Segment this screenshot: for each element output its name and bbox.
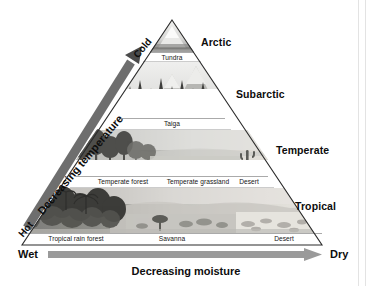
moisture-arrow	[48, 248, 322, 261]
biome-label-temperate-desert: Desert	[228, 178, 270, 185]
biome-label-tropical-desert: Desert	[262, 235, 306, 242]
biome-label-taiga: Taiga	[148, 120, 196, 127]
zone-label-temperate: Temperate	[276, 144, 329, 156]
zone-label-subarctic: Subarctic	[236, 88, 285, 100]
biome-label-savanna: Savanna	[140, 235, 204, 242]
biome-label-tundra: Tundra	[148, 54, 196, 61]
biome-pyramid-figure: Arctic Subarctic Temperate Tropical Tund…	[0, 0, 372, 286]
zone-label-tropical: Tropical	[295, 200, 336, 212]
band-image-tropical	[20, 186, 326, 233]
axis-label-dry: Dry	[330, 248, 348, 260]
axis-label-wet: Wet	[18, 248, 38, 260]
pyramid-graphic	[0, 0, 372, 286]
axis-caption-moisture: Decreasing moisture	[0, 265, 372, 277]
biome-label-tropical-rain-forest: Tropical rain forest	[26, 235, 126, 242]
zone-label-arctic: Arctic	[201, 36, 231, 48]
